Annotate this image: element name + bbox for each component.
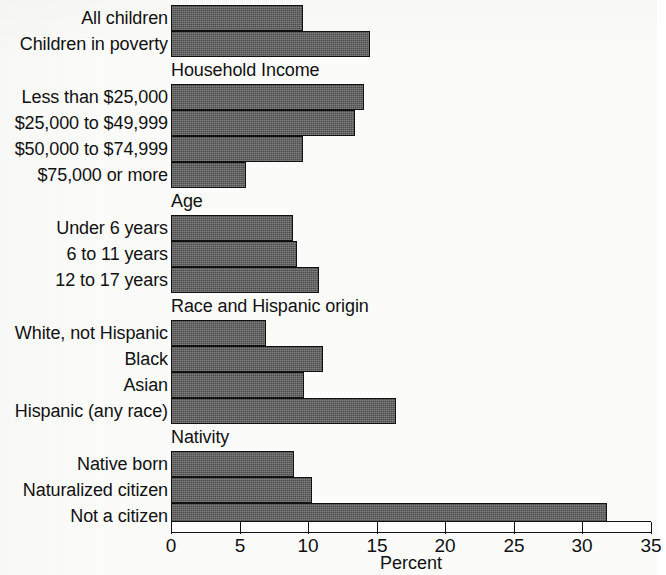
bar-label: Children in poverty: [20, 31, 168, 57]
group-header: Age: [171, 188, 203, 214]
bar-label: Naturalized citizen: [23, 477, 168, 503]
bar-row: 6 to 11 years: [0, 241, 657, 267]
x-tick: [240, 522, 241, 534]
bar-label: Under 6 years: [56, 215, 168, 241]
bar-label: 6 to 11 years: [67, 241, 168, 267]
bar-row: Less than $25,000: [0, 84, 657, 110]
bar-row: $50,000 to $74,999: [0, 136, 657, 162]
bar: [171, 477, 312, 503]
x-axis-title: Percent: [171, 553, 651, 573]
bar-row: Native born: [0, 451, 657, 477]
x-tick: [377, 522, 378, 534]
x-tick: [582, 522, 583, 534]
bar-label: Not a citizen: [70, 503, 168, 529]
bar-row: Hispanic (any race): [0, 398, 657, 424]
bar: [171, 451, 294, 477]
bar-label: Less than $25,000: [22, 84, 168, 110]
x-tick: [651, 522, 652, 534]
bar: [171, 372, 304, 398]
bar: [171, 398, 396, 424]
bar-row: Children in poverty: [0, 31, 657, 57]
bar: [171, 215, 293, 241]
bar-label: $25,000 to $49,999: [15, 110, 168, 136]
bar-label: $50,000 to $74,999: [15, 136, 168, 162]
bar-label: Native born: [77, 451, 168, 477]
bar-row: Naturalized citizen: [0, 477, 657, 503]
x-tick: [308, 522, 309, 534]
group-header: Household Income: [171, 57, 320, 83]
bar-row: Under 6 years: [0, 215, 657, 241]
bar: [171, 346, 323, 372]
bar-label: Asian: [123, 372, 168, 398]
bar-label: All children: [81, 5, 168, 31]
bar-row: White, not Hispanic: [0, 320, 657, 346]
bar-row: $75,000 or more: [0, 162, 657, 188]
bar-label: $75,000 or more: [37, 162, 168, 188]
bar: [171, 31, 370, 57]
x-axis-band: [171, 522, 651, 533]
bar-row: Black: [0, 346, 657, 372]
x-tick: [171, 522, 172, 534]
x-tick: [514, 522, 515, 534]
bar: [171, 241, 297, 267]
bar: [171, 5, 303, 31]
bar-row: All children: [0, 5, 657, 31]
bar: [171, 136, 303, 162]
bar: [171, 84, 364, 110]
bar: [171, 110, 355, 136]
bar-label: Black: [124, 346, 168, 372]
group-header: Nativity: [171, 424, 229, 450]
bar: [171, 267, 319, 293]
bar-label: 12 to 17 years: [55, 267, 168, 293]
bar-label: Hispanic (any race): [15, 398, 168, 424]
bar: [171, 320, 266, 346]
bar: [171, 162, 246, 188]
x-tick: [445, 522, 446, 534]
bar-row: 12 to 17 years: [0, 267, 657, 293]
bar-row: $25,000 to $49,999: [0, 110, 657, 136]
bar-row: Asian: [0, 372, 657, 398]
bar-label: White, not Hispanic: [15, 320, 168, 346]
group-header: Race and Hispanic origin: [171, 293, 369, 319]
